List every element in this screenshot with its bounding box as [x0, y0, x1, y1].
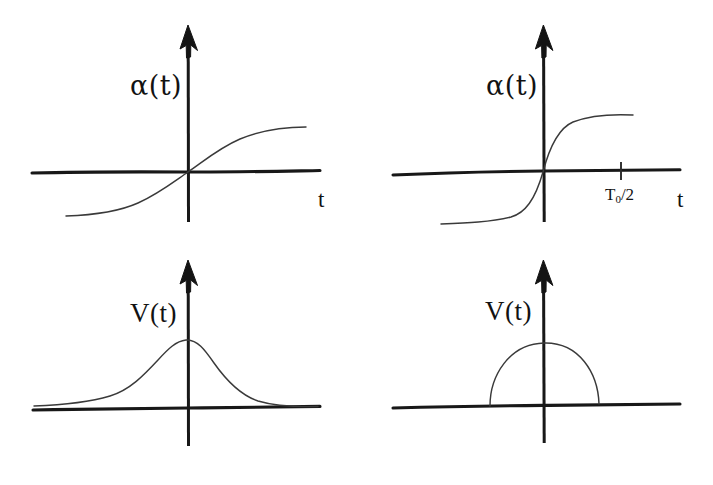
plot-canvas-bottom-left — [0, 243, 356, 485]
y-axis-label-alpha: α(t) — [486, 72, 538, 99]
tick-label-suffix: /2 — [621, 185, 634, 204]
y-axis-arrowhead-icon — [535, 25, 553, 58]
plot-canvas-top-left — [0, 0, 356, 242]
y-axis-label-V: V(t) — [130, 300, 177, 327]
plot-panel-bottom-right: V(t) — [357, 243, 713, 485]
tick-label-sub: 0 — [615, 193, 621, 205]
figure-page: α(t) t α(t) T0/2 t — [0, 0, 713, 485]
x-axis-line — [393, 404, 680, 408]
x-axis-label-t: t — [318, 188, 324, 211]
x-axis-tick-label: T0/2 — [605, 186, 634, 203]
y-axis-arrowhead-icon — [180, 260, 198, 293]
y-axis-line — [544, 285, 545, 443]
y-axis-line — [544, 50, 545, 222]
x-axis-line — [33, 406, 320, 410]
gaussian-pulse-curve — [34, 340, 318, 407]
plot-canvas-top-right — [357, 0, 713, 242]
x-axis-label-t: t — [677, 188, 683, 211]
plot-canvas-bottom-right — [357, 243, 713, 485]
y-axis-arrowhead-icon — [535, 260, 553, 293]
y-axis-label-alpha: α(t) — [130, 72, 182, 99]
tick-label-T: T — [605, 185, 615, 204]
y-axis-label-V: V(t) — [485, 298, 532, 325]
plot-panel-bottom-left: V(t) — [0, 243, 356, 485]
y-axis-arrowhead-icon — [180, 25, 198, 58]
x-axis-line — [393, 170, 680, 175]
plot-panel-top-right: α(t) T0/2 t — [357, 0, 713, 242]
plot-panel-top-left: α(t) t — [0, 0, 356, 242]
x-axis-line — [32, 171, 320, 174]
